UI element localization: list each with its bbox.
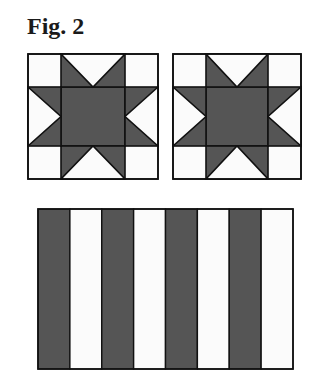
figure-title: Fig. 2 [27,12,84,40]
striped-block [37,208,294,370]
sawtooth-star-block-left [27,53,159,180]
sawtooth-star-block-right [172,53,302,180]
